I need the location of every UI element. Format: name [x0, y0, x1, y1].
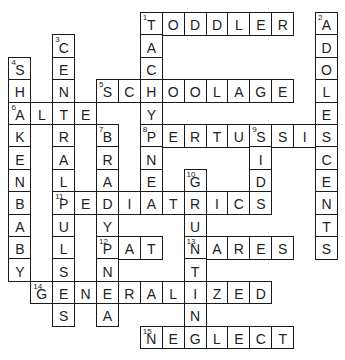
crossword-cell[interactable]: I — [249, 146, 272, 170]
crossword-cell[interactable]: D — [206, 12, 229, 36]
crossword-cell[interactable]: U — [184, 214, 207, 238]
crossword-cell[interactable]: I — [206, 191, 229, 215]
crossword-cell[interactable]: U — [52, 214, 75, 238]
crossword-cell[interactable]: U — [227, 124, 250, 148]
crossword-cell[interactable]: A — [52, 146, 75, 170]
crossword-cell[interactable]: A — [8, 214, 31, 238]
crossword-cell[interactable]: Y — [140, 102, 163, 126]
crossword-cell[interactable]: E — [249, 12, 272, 36]
crossword-cell[interactable]: R — [96, 146, 119, 170]
crossword-cell[interactable]: I — [118, 191, 141, 215]
crossword-cell[interactable]: L — [52, 236, 75, 260]
crossword-cell[interactable]: R — [271, 12, 294, 36]
crossword-cell[interactable]: S — [315, 124, 338, 148]
crossword-cell[interactable]: C — [140, 57, 163, 81]
crossword-cell[interactable]: 1T — [140, 12, 163, 36]
crossword-cell[interactable]: C — [249, 326, 272, 350]
crossword-cell[interactable]: L — [315, 79, 338, 103]
crossword-cell[interactable]: O — [162, 79, 185, 103]
crossword-cell[interactable]: 7B — [96, 124, 119, 148]
crossword-cell[interactable]: S — [249, 191, 272, 215]
crossword-cell[interactable]: T — [271, 326, 294, 350]
crossword-cell[interactable]: E — [271, 79, 294, 103]
crossword-cell[interactable]: 3C — [52, 34, 75, 58]
crossword-cell[interactable]: R — [118, 281, 141, 305]
crossword-cell[interactable]: L — [206, 79, 229, 103]
crossword-cell[interactable]: D — [96, 191, 119, 215]
crossword-cell[interactable]: Y — [8, 258, 31, 282]
crossword-cell[interactable]: A — [206, 236, 229, 260]
crossword-cell[interactable]: E — [315, 102, 338, 126]
crossword-cell[interactable]: 2A — [315, 12, 338, 36]
crossword-cell[interactable]: E — [162, 326, 185, 350]
crossword-cell[interactable]: T — [206, 124, 229, 148]
crossword-cell[interactable]: T — [315, 214, 338, 238]
crossword-cell[interactable]: A — [140, 281, 163, 305]
crossword-cell[interactable]: 12P — [96, 236, 119, 260]
crossword-cell[interactable]: 11P — [52, 191, 75, 215]
crossword-cell[interactable]: G — [249, 79, 272, 103]
crossword-cell[interactable]: D — [184, 12, 207, 36]
crossword-cell[interactable]: B — [8, 191, 31, 215]
crossword-cell[interactable]: 9S — [249, 124, 272, 148]
crossword-cell[interactable]: D — [249, 281, 272, 305]
crossword-cell[interactable]: R — [184, 124, 207, 148]
crossword-cell[interactable]: Z — [206, 281, 229, 305]
crossword-cell[interactable]: A — [96, 303, 119, 327]
crossword-cell[interactable]: 8P — [140, 124, 163, 148]
crossword-cell[interactable]: A — [140, 191, 163, 215]
crossword-cell[interactable]: K — [8, 124, 31, 148]
crossword-cell[interactable]: Y — [96, 214, 119, 238]
crossword-cell[interactable]: I — [293, 124, 316, 148]
crossword-cell[interactable]: A — [118, 236, 141, 260]
crossword-cell[interactable]: T — [52, 102, 75, 126]
crossword-cell[interactable]: T — [162, 191, 185, 215]
crossword-cell[interactable]: A — [140, 34, 163, 58]
crossword-cell[interactable]: E — [249, 236, 272, 260]
crossword-cell[interactable]: E — [8, 146, 31, 170]
crossword-cell[interactable]: E — [162, 124, 185, 148]
crossword-cell[interactable]: N — [315, 191, 338, 215]
crossword-cell[interactable]: N — [96, 258, 119, 282]
crossword-cell[interactable]: E — [74, 191, 97, 215]
crossword-cell[interactable]: L — [30, 102, 53, 126]
crossword-cell[interactable]: A — [227, 79, 250, 103]
crossword-cell[interactable]: N — [140, 146, 163, 170]
crossword-cell[interactable]: R — [184, 191, 207, 215]
crossword-cell[interactable]: T — [184, 258, 207, 282]
crossword-cell[interactable]: 5S — [96, 79, 119, 103]
crossword-cell[interactable]: B — [8, 236, 31, 260]
crossword-cell[interactable]: N — [74, 281, 97, 305]
crossword-cell[interactable]: E — [227, 281, 250, 305]
crossword-cell[interactable]: S — [271, 124, 294, 148]
crossword-cell[interactable]: C — [315, 146, 338, 170]
crossword-cell[interactable]: C — [227, 191, 250, 215]
crossword-cell[interactable]: N — [184, 303, 207, 327]
crossword-cell[interactable]: R — [227, 236, 250, 260]
crossword-cell[interactable]: E — [74, 102, 97, 126]
crossword-cell[interactable]: D — [315, 34, 338, 58]
crossword-cell[interactable]: L — [162, 281, 185, 305]
crossword-cell[interactable]: D — [249, 169, 272, 193]
crossword-cell[interactable]: A — [96, 169, 119, 193]
crossword-cell[interactable]: E — [140, 169, 163, 193]
crossword-cell[interactable]: 13N — [184, 236, 207, 260]
crossword-cell[interactable]: 4S — [8, 57, 31, 81]
crossword-cell[interactable]: 14G — [30, 281, 53, 305]
crossword-cell[interactable]: N — [52, 79, 75, 103]
crossword-cell[interactable]: S — [315, 236, 338, 260]
crossword-cell[interactable]: I — [184, 281, 207, 305]
crossword-cell[interactable]: H — [140, 79, 163, 103]
crossword-cell[interactable]: E — [315, 169, 338, 193]
crossword-cell[interactable]: T — [140, 236, 163, 260]
crossword-cell[interactable]: H — [8, 79, 31, 103]
crossword-cell[interactable]: R — [52, 124, 75, 148]
crossword-cell[interactable]: G — [184, 326, 207, 350]
crossword-cell[interactable]: E — [52, 281, 75, 305]
crossword-cell[interactable]: 15N — [140, 326, 163, 350]
crossword-cell[interactable]: 10G — [184, 169, 207, 193]
crossword-cell[interactable]: O — [184, 79, 207, 103]
crossword-cell[interactable]: O — [315, 57, 338, 81]
crossword-cell[interactable]: S — [52, 303, 75, 327]
crossword-cell[interactable]: L — [206, 326, 229, 350]
